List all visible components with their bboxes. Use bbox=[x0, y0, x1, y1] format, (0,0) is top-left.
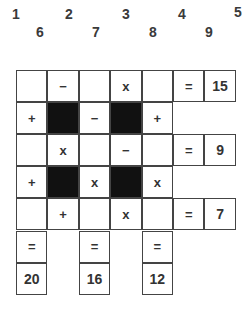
bank-number-5: 5 bbox=[234, 4, 242, 20]
minus-operator-cell: − bbox=[79, 102, 110, 134]
result-cell: 9 bbox=[204, 134, 235, 166]
blocked-cell bbox=[110, 166, 141, 198]
result-cell: 12 bbox=[142, 263, 173, 295]
result-cell: 7 bbox=[204, 198, 235, 230]
bank-number-4: 4 bbox=[178, 6, 186, 22]
bank-number-7: 7 bbox=[92, 24, 100, 40]
plus-operator-cell: + bbox=[47, 198, 78, 230]
equals-cell: = bbox=[142, 231, 173, 263]
equals-cell: = bbox=[173, 134, 204, 166]
equals-cell: = bbox=[173, 198, 204, 230]
answer-cell[interactable] bbox=[16, 70, 47, 102]
answer-cell[interactable] bbox=[79, 198, 110, 230]
bank-number-3: 3 bbox=[122, 6, 130, 22]
bank-number-8: 8 bbox=[149, 24, 157, 40]
multiply-operator-cell: x bbox=[79, 166, 110, 198]
result-cell: 20 bbox=[16, 263, 47, 295]
bank-number-6: 6 bbox=[36, 24, 44, 40]
equals-cell: = bbox=[16, 231, 47, 263]
multiply-operator-cell: x bbox=[47, 134, 78, 166]
equals-cell: = bbox=[79, 231, 110, 263]
minus-operator-cell: − bbox=[47, 70, 78, 102]
result-cell: 16 bbox=[79, 263, 110, 295]
answer-cell[interactable] bbox=[16, 134, 47, 166]
answer-cell[interactable] bbox=[79, 70, 110, 102]
blocked-cell bbox=[110, 102, 141, 134]
answer-cell[interactable] bbox=[142, 70, 173, 102]
result-cell: 15 bbox=[204, 70, 235, 102]
blocked-cell bbox=[47, 102, 78, 134]
blocked-cell bbox=[47, 166, 78, 198]
bank-number-2: 2 bbox=[65, 6, 73, 22]
plus-operator-cell: + bbox=[142, 102, 173, 134]
plus-operator-cell: + bbox=[16, 166, 47, 198]
answer-cell[interactable] bbox=[142, 134, 173, 166]
multiply-operator-cell: x bbox=[110, 198, 141, 230]
plus-operator-cell: + bbox=[16, 102, 47, 134]
answer-cell[interactable] bbox=[16, 198, 47, 230]
bank-number-1: 1 bbox=[12, 6, 20, 22]
equals-cell: = bbox=[173, 70, 204, 102]
answer-cell[interactable] bbox=[79, 134, 110, 166]
multiply-operator-cell: x bbox=[142, 166, 173, 198]
answer-cell[interactable] bbox=[142, 198, 173, 230]
minus-operator-cell: − bbox=[110, 134, 141, 166]
multiply-operator-cell: x bbox=[110, 70, 141, 102]
bank-number-9: 9 bbox=[205, 24, 213, 40]
